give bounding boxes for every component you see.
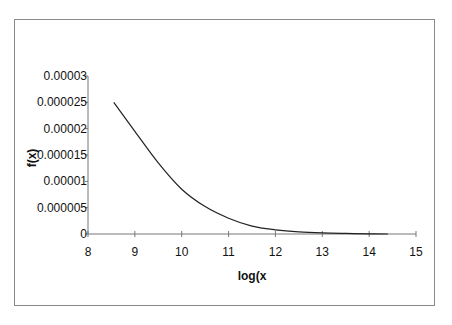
x-axis-label: log(x <box>238 269 267 283</box>
y-tick-label: 0.00003 <box>44 69 88 83</box>
y-tick-label: 0.00002 <box>44 122 88 136</box>
x-tick-label: 15 <box>409 245 423 259</box>
x-tick-label: 9 <box>132 245 139 259</box>
y-tick-label: 0.000005 <box>37 201 87 215</box>
x-tick-label: 14 <box>362 245 376 259</box>
x-tick-label: 8 <box>85 245 92 259</box>
y-tick-label: 0.000025 <box>37 95 87 109</box>
y-tick-label: 0 <box>80 227 87 241</box>
y-tick-label: 0.000015 <box>37 148 87 162</box>
line-chart: 00.0000050.000010.0000150.000020.0000250… <box>0 0 452 325</box>
x-tick-label: 13 <box>316 245 330 259</box>
x-axis-ticks: 89101112131415 <box>85 231 423 259</box>
data-series-line <box>114 102 388 234</box>
x-tick-label: 10 <box>175 245 189 259</box>
y-tick-label: 0.00001 <box>44 174 88 188</box>
axes <box>88 76 416 234</box>
y-axis-label: f(x) <box>25 149 39 168</box>
x-tick-label: 11 <box>222 245 235 259</box>
x-tick-label: 12 <box>269 245 283 259</box>
y-axis-ticks: 00.0000050.000010.0000150.000020.0000250… <box>37 69 88 241</box>
